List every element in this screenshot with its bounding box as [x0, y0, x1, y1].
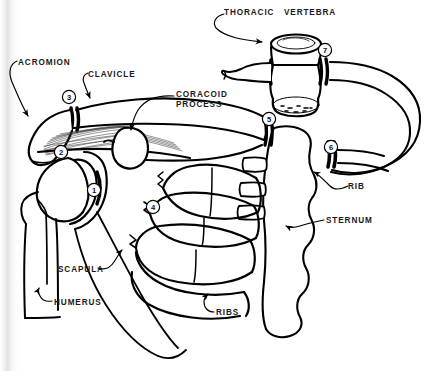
costal-notches — [238, 157, 267, 219]
humerus-bone — [21, 158, 88, 318]
leader-humerus — [38, 288, 52, 301]
marker-label-3: 3 — [63, 91, 76, 104]
clavicle-shaft — [74, 98, 267, 140]
marker-label-7: 7 — [319, 44, 332, 57]
label-scapula: SCAPULA — [58, 265, 104, 275]
label-rib: RIB — [348, 182, 365, 192]
sternum-body — [263, 126, 317, 337]
leader-ribs — [204, 294, 214, 312]
leader-acromion — [10, 61, 28, 116]
marker-label-1: 1 — [88, 184, 101, 197]
marker-label-4: 4 — [147, 201, 160, 214]
rib-upper-arc — [330, 62, 420, 174]
marker-label-5: 5 — [263, 113, 276, 126]
transverse-process-stub — [222, 63, 271, 82]
label-ribs: RIBS — [216, 308, 239, 318]
label-thoracic-vertebra: THORACIC VERTEBRA — [224, 8, 336, 18]
label-clavicle: CLAVICLE — [88, 70, 136, 80]
diagram-canvas: THORACIC VERTEBRA ACROMION CLAVICLE CORA… — [0, 0, 432, 371]
label-coracoid-process: CORACOID PROCESS — [176, 90, 228, 110]
label-humerus: HUMERUS — [54, 298, 102, 308]
label-sternum: STERNUM — [326, 216, 373, 226]
marker-label-2: 2 — [55, 146, 68, 159]
marker-label-6: 6 — [325, 141, 338, 154]
thoracic-vertebra-body — [270, 35, 321, 117]
leader-thoracic-vertebra — [214, 14, 262, 42]
label-acromion: ACROMION — [18, 58, 71, 68]
